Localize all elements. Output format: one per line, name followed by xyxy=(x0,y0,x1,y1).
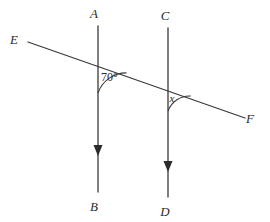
label-angle-x: x xyxy=(169,92,175,104)
geometry-figure: A B C D E F 70° x xyxy=(0,0,270,222)
label-point-a: A xyxy=(89,6,98,21)
label-point-b: B xyxy=(90,199,98,214)
label-angle-70: 70° xyxy=(101,70,118,84)
label-point-c: C xyxy=(161,8,170,23)
label-point-d: D xyxy=(159,204,170,219)
label-point-f: F xyxy=(245,111,255,126)
label-point-e: E xyxy=(9,32,18,47)
figure-background xyxy=(0,0,270,222)
